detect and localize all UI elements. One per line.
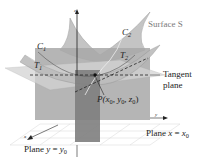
point-p [93, 73, 97, 77]
z-axis-label: z [74, 8, 76, 13]
curve-c1-label: C1 [37, 42, 46, 52]
tangent-t2-label: T2 [120, 51, 128, 61]
plane-y-y0 [75, 70, 100, 142]
surface-s-label: Surface S [148, 20, 183, 29]
x-axis [30, 125, 58, 138]
tangent-plane-label: Tangent plane [163, 70, 192, 90]
x-axis-label: x [24, 134, 26, 139]
tangent-t1-label: T1 [34, 61, 42, 71]
plane-x-label: Plane x = x0 [146, 129, 189, 139]
y-axis-arrow-icon [163, 116, 168, 120]
x-axis-arrow-icon [27, 135, 33, 140]
curve-c2-label: C2 [122, 28, 131, 38]
diagram-canvas: Surface S C2 C1 T1 T2 Tangent plane P(x0… [0, 0, 201, 157]
plane-y-label: Plane y = y0 [24, 145, 67, 155]
point-p-label: P(x0, y0, z0) [97, 95, 138, 105]
y-axis-label: y [155, 112, 157, 117]
